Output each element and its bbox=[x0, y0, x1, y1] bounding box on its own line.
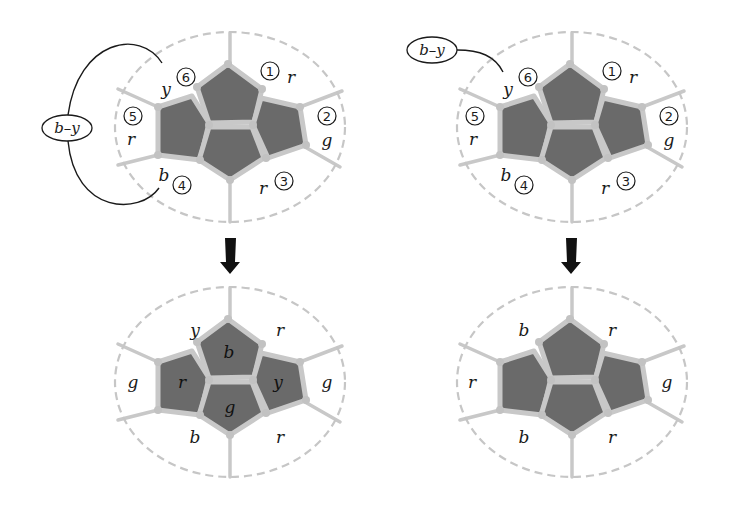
region-3: r 3 bbox=[259, 172, 293, 198]
inner-region-top-label: b bbox=[224, 342, 235, 362]
kempe-chain-right: b–y bbox=[407, 37, 503, 72]
region-1: 1 r bbox=[603, 62, 638, 87]
region-color-label: r bbox=[469, 129, 478, 149]
region-color-label: b bbox=[501, 165, 512, 185]
inner-region-left-label: r bbox=[178, 372, 187, 392]
region-number: 5 bbox=[471, 109, 479, 124]
kempe-chain-curve-upper bbox=[68, 44, 162, 115]
map-cluster bbox=[115, 287, 345, 477]
panel-top-left: y 6 1 r 5 r 2 g b 4 r 3 bbox=[115, 32, 345, 222]
region-number: 5 bbox=[129, 109, 137, 124]
inner-region-right-label: y bbox=[272, 372, 283, 392]
kempe-chain-curve-lower bbox=[68, 141, 159, 205]
region-5: 5 r bbox=[124, 107, 142, 149]
map-cluster bbox=[115, 32, 345, 222]
inner-region-bottom-label: g bbox=[225, 397, 236, 417]
region-color-label: g bbox=[322, 130, 333, 150]
kempe-chain-label: b–y bbox=[54, 119, 80, 137]
region-number: 3 bbox=[280, 174, 288, 189]
region-color-label: r bbox=[259, 178, 268, 198]
outer-region-bottom-right-label: r bbox=[276, 427, 285, 447]
down-arrow-icon bbox=[220, 238, 240, 274]
outer-region-bottom-left-label: b bbox=[519, 427, 530, 447]
region-number: 6 bbox=[182, 70, 190, 85]
region-3: r 3 bbox=[601, 172, 635, 198]
outer-region-top-right-label: r bbox=[608, 320, 617, 340]
region-number: 4 bbox=[178, 178, 186, 193]
region-number: 3 bbox=[622, 174, 630, 189]
outer-region-right-label: g bbox=[322, 372, 333, 392]
down-arrow-icon bbox=[561, 238, 581, 274]
outer-region-top-left-label: b bbox=[519, 320, 530, 340]
panel-bottom-right: b r r g b r bbox=[457, 287, 687, 477]
region-1: 1 r bbox=[261, 62, 296, 87]
region-4: b 4 bbox=[501, 165, 533, 194]
kempe-chain-label: b–y bbox=[419, 41, 445, 59]
region-number: 2 bbox=[323, 109, 331, 124]
region-number: 2 bbox=[665, 109, 673, 124]
outer-region-bottom-left-label: b bbox=[190, 427, 201, 447]
map-cluster bbox=[457, 32, 687, 222]
region-color-label: r bbox=[287, 67, 296, 87]
region-color-label: g bbox=[664, 130, 675, 150]
region-color-label: r bbox=[629, 67, 638, 87]
region-2: 2 g bbox=[318, 107, 336, 150]
kempe-chain-left: b–y bbox=[42, 44, 162, 204]
region-number: 1 bbox=[608, 64, 616, 79]
region-2: 2 g bbox=[660, 107, 678, 150]
outer-region-left-label: r bbox=[468, 372, 477, 392]
outer-region-left-label: g bbox=[128, 372, 139, 392]
region-5: 5 r bbox=[466, 107, 484, 149]
outer-region-bottom-right-label: r bbox=[608, 427, 617, 447]
outer-region-top-right-label: r bbox=[276, 320, 285, 340]
outer-region-top-left-label: y bbox=[189, 320, 200, 340]
outer-region-right-label: g bbox=[662, 372, 673, 392]
region-number: 4 bbox=[520, 178, 528, 193]
region-color-label: r bbox=[127, 129, 136, 149]
region-number: 1 bbox=[266, 64, 274, 79]
region-4: b 4 bbox=[159, 165, 191, 194]
region-color-label: y bbox=[502, 79, 513, 99]
region-color-label: y bbox=[160, 79, 171, 99]
region-number: 6 bbox=[524, 70, 532, 85]
kempe-chain-figure: y 6 1 r 5 r 2 g b 4 r 3 bbox=[0, 0, 731, 512]
panel-top-right: y 6 1 r 5 r 2 g b 4 r 3 bbox=[457, 32, 687, 222]
panel-bottom-left: y r g g b r b r y g bbox=[115, 287, 345, 477]
region-color-label: r bbox=[601, 178, 610, 198]
map-cluster bbox=[457, 287, 687, 477]
region-color-label: b bbox=[159, 165, 170, 185]
